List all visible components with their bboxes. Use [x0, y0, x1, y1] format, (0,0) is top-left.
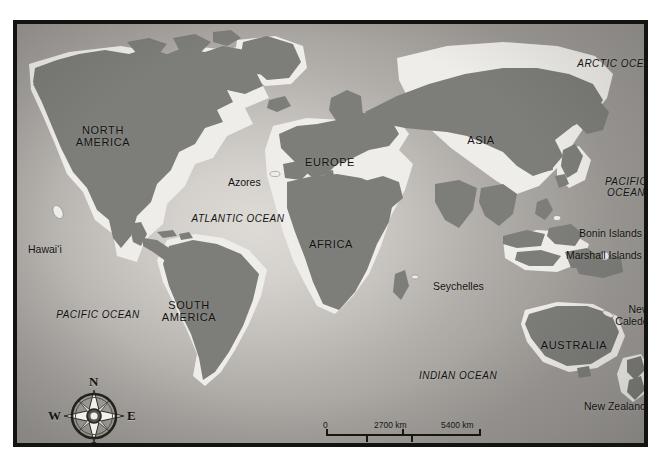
map-canvas: NORTH AMERICA SOUTH AMERICA EUROPE AFRIC… — [17, 24, 644, 443]
label-azores: Azores — [228, 177, 261, 189]
scale-tick-mi-2 — [411, 435, 413, 442]
label-seychelles: Seychelles — [433, 281, 484, 293]
world-map-figure: NORTH AMERICA SOUTH AMERICA EUROPE AFRIC… — [0, 0, 662, 459]
scale-bar: 0 2700 km 5400 km 900 mi 1800 mi — [323, 420, 493, 443]
label-hawaii: Hawai‘i — [28, 244, 62, 256]
label-new-caledonia: New Caledonia — [609, 304, 644, 328]
compass-south-label: S — [90, 438, 97, 443]
label-north-america: NORTH AMERICA — [63, 124, 143, 149]
label-marshall-islands: Marshall Islands — [566, 250, 642, 262]
label-indian-ocean: INDIAN OCEAN — [406, 370, 510, 381]
scale-km-label-2: 5400 km — [441, 420, 474, 430]
label-asia: ASIA — [441, 134, 521, 146]
scale-tick-end — [479, 429, 481, 436]
scale-tick-start — [326, 429, 328, 436]
label-europe: EUROPE — [290, 156, 370, 168]
map-frame: NORTH AMERICA SOUTH AMERICA EUROPE AFRIC… — [13, 20, 648, 447]
label-arctic-ocean: ARCTIC OCEAN — [568, 58, 644, 69]
bonin-islands-marker — [553, 215, 561, 220]
hawaii-island-marker — [51, 204, 66, 221]
compass-north-label: N — [89, 374, 98, 390]
compass-rose: N S W E — [45, 376, 143, 443]
label-south-america: SOUTH AMERICA — [149, 299, 229, 324]
label-pacific-ocean-left: PACIFIC OCEAN — [43, 309, 153, 320]
label-africa: AFRICA — [291, 238, 371, 250]
azores-island-marker — [270, 171, 280, 176]
compass-east-label: E — [127, 408, 136, 424]
seychelles-island-marker — [412, 275, 419, 279]
label-australia: AUSTRALIA — [531, 339, 617, 351]
label-pacific-ocean-right: PACIFIC OCEAN — [585, 176, 644, 198]
label-bonin-islands: Bonin Islands — [579, 228, 642, 240]
compass-west-label: W — [48, 408, 61, 424]
scale-tick-mi-1 — [366, 435, 368, 442]
scale-tick-km-mid — [402, 429, 404, 436]
label-new-zealand: New Zealand — [584, 401, 644, 413]
label-atlantic-ocean: ATLANTIC OCEAN — [182, 213, 294, 224]
